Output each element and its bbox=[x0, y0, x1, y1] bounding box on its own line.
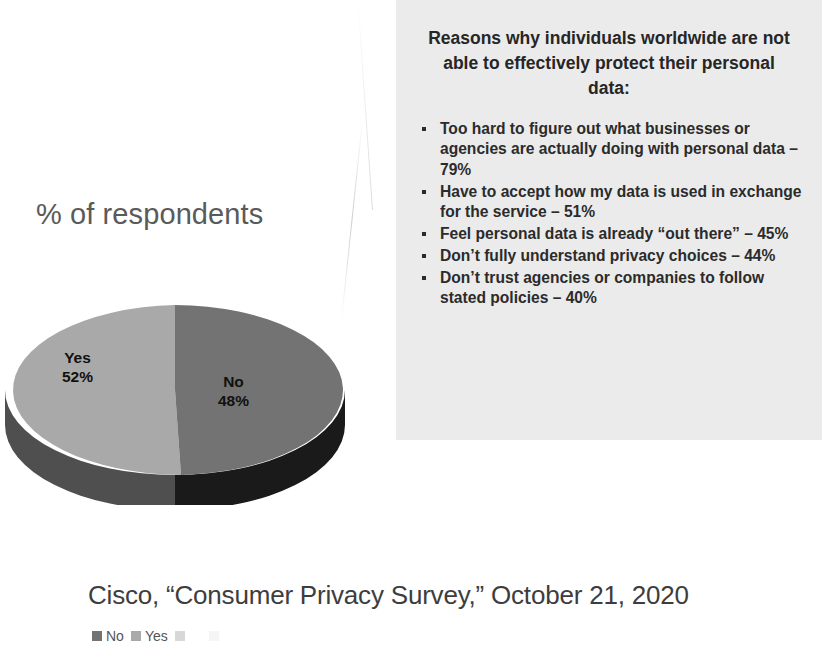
pie-chart-svg bbox=[0, 300, 380, 540]
legend-swatch-icon-no bbox=[92, 631, 102, 641]
legend-label-yes: Yes bbox=[145, 629, 168, 643]
pie-label-yes-name: Yes bbox=[64, 349, 91, 366]
leader-line-lower bbox=[341, 120, 363, 319]
legend-swatch-icon-empty-1 bbox=[175, 631, 185, 641]
pie-label-yes: Yes 52% bbox=[62, 348, 93, 387]
pie-label-no-name: No bbox=[223, 373, 244, 390]
pie-label-no-value: 48% bbox=[218, 392, 249, 409]
chart-legend: No Yes bbox=[92, 629, 223, 643]
pie-label-yes-value: 52% bbox=[62, 368, 93, 385]
leader-line-upper bbox=[357, 0, 373, 210]
legend-swatch-icon-empty-2 bbox=[209, 631, 219, 641]
list-item: Don’t fully understand privacy choices –… bbox=[418, 246, 808, 267]
legend-item-empty-2[interactable] bbox=[209, 631, 223, 641]
slide-canvas: % of respondents Yes 52% bbox=[0, 0, 822, 655]
chart-title: % of respondents bbox=[36, 198, 263, 231]
source-citation: Cisco, “Consumer Privacy Survey,” Octobe… bbox=[88, 580, 689, 611]
list-item: Have to accept how my data is used in ex… bbox=[418, 182, 808, 223]
reasons-panel: Reasons why individuals worldwide are no… bbox=[396, 0, 822, 440]
legend-item-yes[interactable]: Yes bbox=[131, 629, 168, 643]
panel-heading: Reasons why individuals worldwide are no… bbox=[396, 0, 822, 101]
list-item: Feel personal data is already “out there… bbox=[418, 224, 808, 245]
reasons-list: Too hard to figure out what businesses o… bbox=[396, 101, 822, 310]
list-item: Too hard to figure out what businesses o… bbox=[418, 119, 808, 181]
pie-label-no: No 48% bbox=[218, 372, 249, 411]
legend-item-empty-1[interactable] bbox=[175, 631, 189, 641]
list-item: Don’t trust agencies or companies to fol… bbox=[418, 268, 808, 309]
pie-chart: Yes 52% No 48% bbox=[0, 300, 380, 540]
legend-item-no[interactable]: No bbox=[92, 629, 124, 643]
legend-label-no: No bbox=[106, 629, 124, 643]
legend-swatch-icon-yes bbox=[131, 631, 141, 641]
